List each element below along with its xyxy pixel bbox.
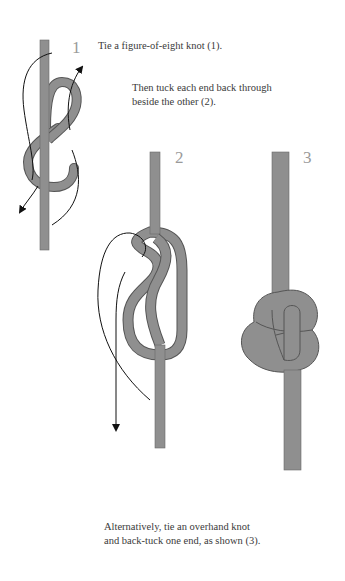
caption-step-2-line-2: beside the other (2). [132, 95, 216, 109]
caption-step-3-line-2: and back-tuck one end, as shown (3). [104, 534, 260, 548]
figure-1-label: 1 [72, 38, 81, 58]
figure-2-retraced-eight [98, 152, 182, 448]
figure-3-overhand-back-tuck [241, 152, 318, 470]
caption-step-3-line-1: Alternatively, tie an overhand knot [104, 520, 250, 534]
figure-3-label: 3 [303, 148, 312, 168]
figure-1-figure-of-eight [20, 40, 82, 250]
figure-2-label: 2 [175, 148, 184, 168]
caption-step-2-line-1: Then tuck each end back through [132, 81, 272, 95]
caption-step-1: Tie a figure-of-eight knot (1). [98, 39, 222, 53]
